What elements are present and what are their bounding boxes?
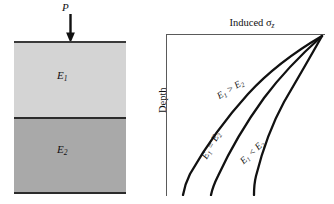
curve-e1-less-e2 xyxy=(254,36,322,195)
layer-label-e2-text: E xyxy=(57,143,64,155)
chart-curves xyxy=(166,34,325,196)
layer-label-e2-sub: 2 xyxy=(64,148,68,157)
chart-top-axis-label: Induced σz xyxy=(182,18,322,29)
down-arrow-icon xyxy=(60,14,82,43)
point-load-label: P xyxy=(62,2,69,13)
layer-label-e1-sub: 1 xyxy=(64,74,68,83)
figure-root: P E1 E2 Induced σz Depth E1 > E2 E1 = E2… xyxy=(0,0,334,204)
soil-block: E1 E2 xyxy=(14,41,126,194)
chart-top-axis-label-text: Induced σ xyxy=(229,17,271,28)
chart-top-axis-label-sub: z xyxy=(272,21,275,30)
layer-label-e1: E1 xyxy=(57,70,67,81)
chart-plot-area xyxy=(166,34,325,196)
soil-layer-upper xyxy=(14,41,126,117)
curve-e1-equal-e2 xyxy=(211,36,322,195)
soil-layer-lower xyxy=(14,117,126,194)
layer-label-e2: E2 xyxy=(57,144,67,155)
layer-label-e1-text: E xyxy=(57,69,64,81)
